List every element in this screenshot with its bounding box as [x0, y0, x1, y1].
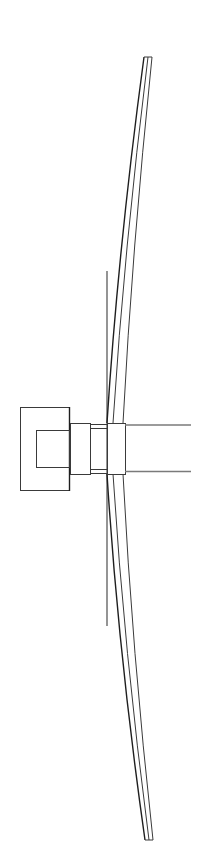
lower-blade — [107, 474, 153, 840]
housing-inner — [37, 431, 70, 468]
rotor-diagram — [0, 0, 221, 867]
upper-blade — [107, 57, 152, 423]
hub — [108, 424, 126, 475]
shaft — [91, 425, 108, 474]
coupling — [71, 424, 91, 475]
housing-outer — [21, 408, 70, 491]
